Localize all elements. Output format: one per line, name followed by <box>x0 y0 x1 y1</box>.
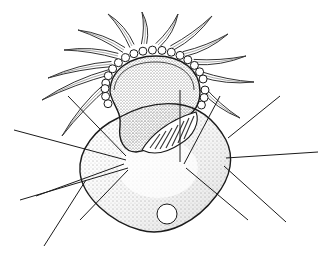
leader-line <box>44 180 86 246</box>
rotifer-illustration <box>0 0 326 256</box>
leader-line <box>228 96 280 138</box>
cilium <box>64 48 118 58</box>
cilium <box>200 71 254 82</box>
leader-line <box>224 166 286 222</box>
diagram-canvas <box>0 0 326 256</box>
round-vesicle <box>157 204 177 224</box>
cilium <box>141 12 147 44</box>
cilium <box>42 70 111 100</box>
leader-line <box>226 152 318 158</box>
cilium <box>194 56 246 65</box>
cilium <box>156 14 178 46</box>
